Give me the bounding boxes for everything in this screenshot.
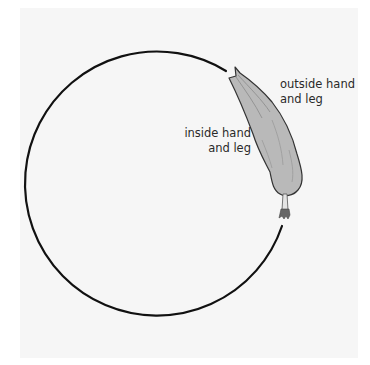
outside-label-line1: outside hand [280,77,355,92]
figure-legs [282,194,288,210]
inside-label-line1: inside hand [184,126,251,141]
inside-label-line2: and leg [184,141,251,156]
circular-path-diagram [0,0,370,365]
outside-hand-leg-label: outside hand and leg [280,77,355,106]
outside-label-line2: and leg [280,92,355,107]
figure-feet [279,209,290,219]
inside-hand-leg-label: inside hand and leg [184,126,251,155]
